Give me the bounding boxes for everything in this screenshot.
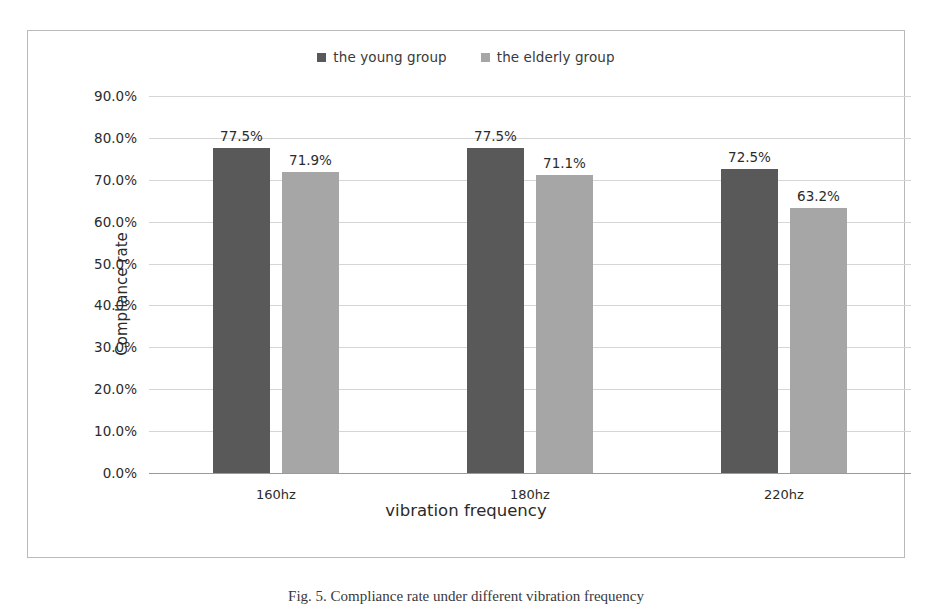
plot-area: 90.0%80.0%70.0%60.0%50.0%40.0%30.0%20.0%… [149,96,911,473]
y-axis-tick-label: 80.0% [94,130,137,146]
legend-swatch-icon [317,53,326,62]
legend-swatch-icon [481,53,490,62]
legend-label: the young group [333,49,446,65]
bar[interactable]: 71.1% [536,175,593,473]
bar[interactable]: 72.5% [721,169,778,473]
figure-frame: the young groupthe elderly group Complia… [27,30,905,558]
legend-label: the elderly group [497,49,615,65]
x-axis-title: vibration frequency [28,501,904,520]
x-axis-category-label: 160hz [256,487,296,502]
bar[interactable]: 77.5% [213,148,270,473]
x-axis-line [149,473,911,474]
bar[interactable]: 71.9% [282,172,339,473]
y-axis-tick-label: 60.0% [94,214,137,230]
chart-legend: the young groupthe elderly group [28,49,904,65]
y-axis-tick-label: 90.0% [94,88,137,104]
bar-value-label: 71.1% [543,155,586,171]
y-axis-tick-label: 10.0% [94,423,137,439]
bar-value-label: 71.9% [289,152,332,168]
legend-entry[interactable]: the elderly group [481,49,615,65]
bar-value-label: 77.5% [220,128,263,144]
bar-value-label: 72.5% [728,149,771,165]
bar-value-label: 63.2% [797,188,840,204]
bar-value-label: 77.5% [474,128,517,144]
bar[interactable]: 63.2% [790,208,847,473]
y-axis-tick-label: 30.0% [94,339,137,355]
y-axis-tick-label: 50.0% [94,256,137,272]
bar[interactable]: 77.5% [467,148,524,473]
y-axis-title: Compliance rate [113,232,131,356]
y-axis-tick-label: 40.0% [94,297,137,313]
y-axis-tick-label: 20.0% [94,381,137,397]
legend-entry[interactable]: the young group [317,49,446,65]
gridline [149,138,911,139]
x-axis-category-label: 180hz [510,487,550,502]
gridline [149,96,911,97]
y-axis-tick-label: 70.0% [94,172,137,188]
figure-caption: Fig. 5. Compliance rate under different … [0,588,932,604]
x-axis-category-label: 220hz [764,487,804,502]
y-axis-tick-label: 0.0% [103,465,137,481]
